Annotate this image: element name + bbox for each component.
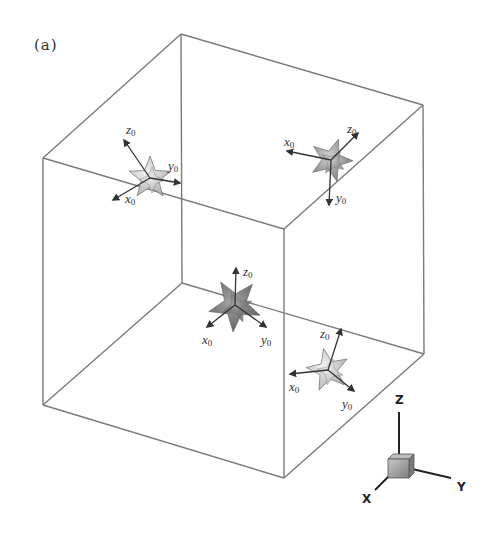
local-axis-y0	[328, 370, 354, 391]
global-axis-label-x: X	[362, 492, 372, 506]
local-axis-label-z0: z0	[319, 326, 330, 342]
local-axis-label-z0: z0	[346, 121, 357, 137]
local-axis-label-x0: x0	[201, 332, 213, 348]
cube-edge	[43, 34, 181, 158]
global-axis-triad: ZYX	[362, 393, 466, 506]
panel-label: (a)	[34, 36, 58, 54]
local-axis-label-y0: y0	[166, 158, 179, 174]
crystal-bottom-right: z0x0y0	[288, 326, 354, 412]
cube-edge	[43, 405, 284, 478]
cube-edge	[284, 105, 423, 229]
local-axis-label-x0: x0	[283, 134, 295, 150]
diagram-canvas: (a) z0y0x0x0z0y0z0x0y0z0x	[0, 0, 495, 533]
crystals-layer: z0y0x0x0z0y0z0x0y0z0x0y0	[113, 121, 358, 412]
local-axis-label-y0: y0	[259, 332, 272, 348]
cube-edge	[43, 158, 284, 229]
local-axis-label-x0: x0	[288, 379, 300, 395]
cube-edge	[181, 34, 182, 283]
cube-diagram: z0y0x0x0z0y0z0x0y0z0x0y0 ZYX	[0, 0, 495, 533]
global-axis-label-z: Z	[395, 393, 404, 407]
global-axis-label-y: Y	[456, 480, 466, 494]
local-axis-label-x0: x0	[124, 191, 136, 207]
local-axis-label-z0: z0	[125, 122, 136, 138]
cube-edge	[43, 283, 182, 405]
crystal-top-right: x0z0y0	[283, 121, 358, 206]
triad-box-front	[388, 459, 409, 478]
local-axis-label-y0: y0	[334, 190, 347, 206]
simulation-domain-cube	[43, 34, 424, 478]
local-axis-label-y0: y0	[340, 396, 353, 412]
cube-edge	[423, 105, 424, 354]
cube-edge	[181, 34, 423, 105]
local-axis-label-z0: z0	[242, 264, 253, 280]
crystal-top-left: z0y0x0	[113, 122, 180, 207]
